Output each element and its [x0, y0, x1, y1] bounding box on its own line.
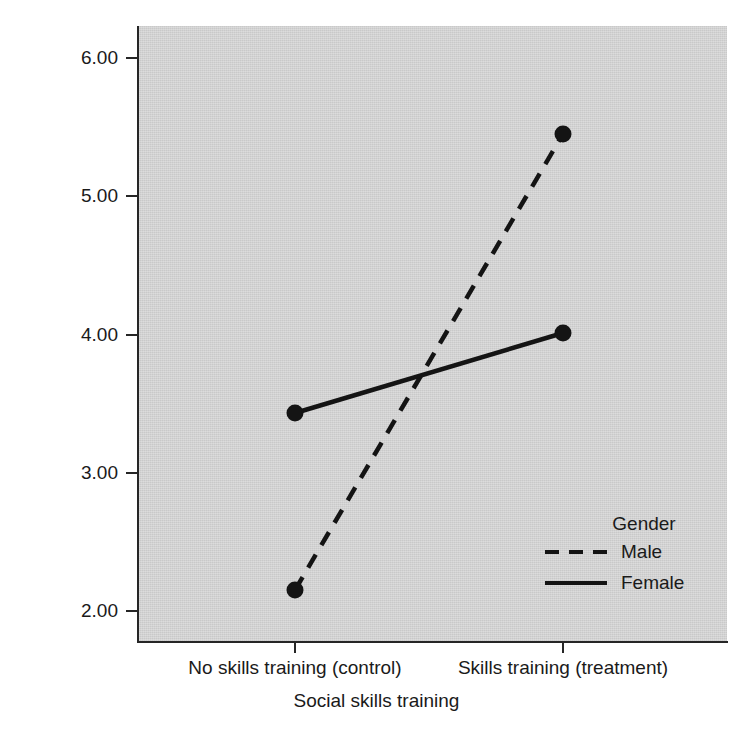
data-point-male-control [287, 582, 304, 599]
legend-label-male: Male [609, 542, 662, 561]
legend: Gender Male Female [543, 512, 719, 598]
series-line-female [295, 333, 563, 413]
legend-swatch-solid-line-icon [543, 576, 609, 590]
series-layer [0, 0, 753, 741]
legend-label-female: Female [609, 573, 684, 592]
data-point-female-control [287, 405, 304, 422]
legend-item-male: Male [543, 536, 719, 567]
data-point-male-treatment [555, 126, 572, 143]
data-point-female-treatment [555, 325, 572, 342]
series-line-male [295, 134, 563, 590]
interaction-plot-figure: 6.00 5.00 4.00 3.00 2.00 No skills train… [0, 0, 753, 741]
legend-title: Gender [543, 512, 719, 536]
legend-item-female: Female [543, 567, 719, 598]
legend-swatch-dashed-line-icon [543, 545, 609, 559]
